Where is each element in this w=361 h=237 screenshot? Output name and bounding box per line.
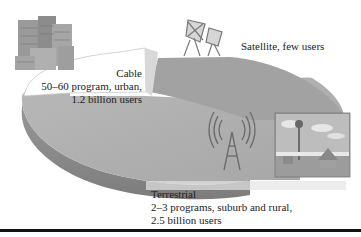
bottom-rule xyxy=(0,229,361,232)
rural-house-with-tower-photo xyxy=(275,113,350,177)
terrestrial-label: Terrestrial 2–3 programs, suburb and rur… xyxy=(151,188,292,227)
cable-label: Cable 50–60 program, urban, 1.2 billion … xyxy=(40,67,142,106)
satellite-label: Satellite, few users xyxy=(241,40,324,53)
terrestrial-users: 2.5 billion users xyxy=(151,214,292,227)
cable-users: 1.2 billion users xyxy=(40,93,142,106)
satellite-dish-icon xyxy=(184,20,222,56)
tv-distribution-diagram: Cable 50–60 program, urban, 1.2 billion … xyxy=(0,0,361,237)
cable-detail: 50–60 program, urban, xyxy=(40,80,142,93)
terrestrial-detail: 2–3 programs, suburb and rural, xyxy=(151,201,292,214)
city-buildings-icon xyxy=(15,16,74,70)
terrestrial-title: Terrestrial xyxy=(151,188,292,201)
satellite-title: Satellite, few users xyxy=(241,40,324,53)
cable-title: Cable xyxy=(40,67,142,80)
